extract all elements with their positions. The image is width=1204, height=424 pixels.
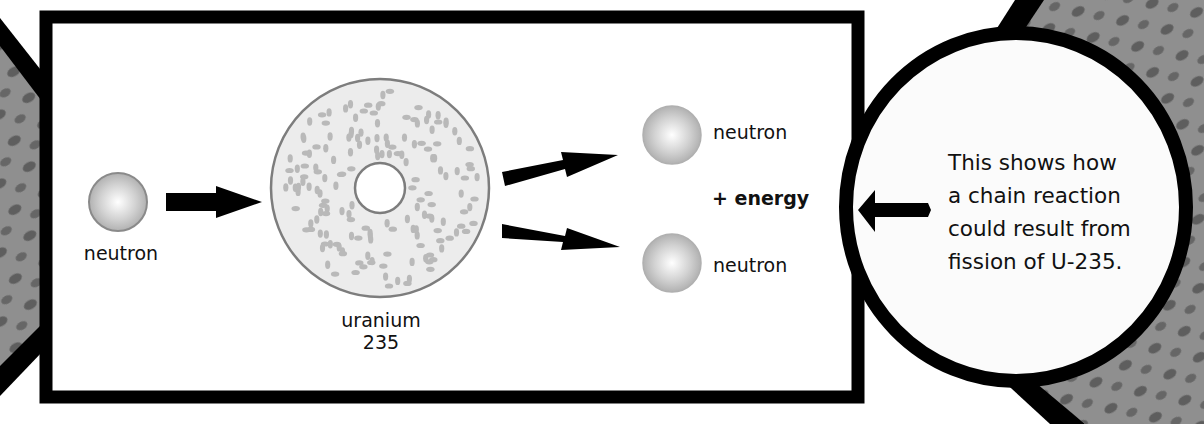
nucleus-hole (355, 163, 405, 213)
uranium-label-line2: 235 (363, 331, 399, 353)
top-neutron-label: neutron (713, 121, 787, 143)
neutron-icon (643, 234, 701, 292)
callout-line-4: fission of U-235. (948, 249, 1122, 274)
incoming-neutron-label: neutron (84, 242, 158, 264)
uranium-label-line1: uranium (341, 309, 420, 331)
fission-diagram: neutron uranium 235 neutron + energy neu… (0, 0, 1204, 424)
energy-label: + energy (712, 187, 810, 209)
callout-line-1: This shows how (947, 150, 1117, 175)
neutron-icon (89, 173, 147, 231)
callout-circle: This shows how a chain reaction could re… (846, 33, 1186, 381)
callout-line-2: a chain reaction (948, 183, 1121, 208)
bottom-neutron-label: neutron (713, 254, 787, 276)
left-background-wedge (0, 18, 44, 396)
neutron-icon (643, 106, 701, 164)
callout-line-3: could result from (948, 216, 1131, 241)
